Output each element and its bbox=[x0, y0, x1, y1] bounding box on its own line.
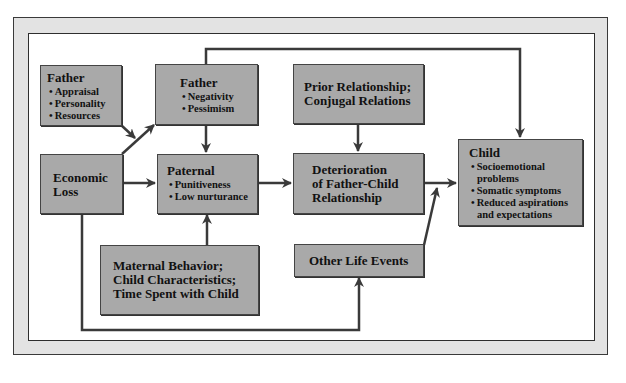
father-traits-title: Father bbox=[47, 71, 121, 85]
maternal-behavior-box: Maternal Behavior; Child Characteristics… bbox=[100, 245, 259, 315]
other-life-events-box: Other Life Events bbox=[294, 244, 424, 277]
deterioration-line-3: Relationship bbox=[312, 191, 423, 205]
list-item: Negativity bbox=[180, 91, 257, 103]
maternal-line-2: Child Characteristics; bbox=[113, 273, 258, 287]
other-events-line: Other Life Events bbox=[309, 254, 423, 268]
maternal-line-3: Time Spent with Child bbox=[113, 287, 258, 301]
father-traits-box: Father Appraisal Personality Resources bbox=[40, 65, 122, 126]
child-box: Child Socioemotional problems Somatic sy… bbox=[458, 139, 583, 226]
deterioration-box: Deterioration of Father-Child Relationsh… bbox=[293, 153, 424, 214]
prior-line-1: Prior Relationship; bbox=[304, 80, 423, 94]
deterioration-line-2: of Father-Child bbox=[312, 177, 423, 191]
father-traits-list: Appraisal Personality Resources bbox=[47, 86, 121, 122]
child-list: Socioemotional problems Somatic symptoms… bbox=[469, 161, 578, 221]
child-title: Child bbox=[469, 146, 578, 160]
list-item: Socioemotional problems bbox=[469, 161, 578, 185]
list-item: Low nurturance bbox=[167, 191, 257, 203]
father-state-list: Negativity Pessimism bbox=[180, 91, 257, 115]
paternal-list: Punitiveness Low nurturance bbox=[167, 179, 257, 203]
prior-relationship-box: Prior Relationship; Conjugal Relations bbox=[293, 64, 424, 124]
list-item: Personality bbox=[47, 98, 121, 110]
list-item: Resources bbox=[47, 110, 121, 122]
economic-line-2: Loss bbox=[53, 185, 122, 199]
prior-line-2: Conjugal Relations bbox=[304, 94, 423, 108]
maternal-line-1: Maternal Behavior; bbox=[113, 259, 258, 273]
list-item: Reduced aspirations and expectations bbox=[469, 197, 578, 221]
paternal-box: Paternal Punitiveness Low nurturance bbox=[157, 154, 258, 214]
arrow-father-traits-to-father-state bbox=[121, 125, 135, 138]
list-item: Appraisal bbox=[47, 86, 121, 98]
deterioration-line-1: Deterioration bbox=[312, 163, 423, 177]
economic-line-1: Economic bbox=[53, 171, 122, 185]
arrow-other-events-to-child bbox=[424, 188, 437, 245]
father-state-box: Father Negativity Pessimism bbox=[155, 64, 258, 125]
list-item: Punitiveness bbox=[167, 179, 257, 191]
list-item: Pessimism bbox=[180, 103, 257, 115]
economic-loss-box: Economic Loss bbox=[40, 154, 123, 214]
list-item: Somatic symptoms bbox=[469, 185, 578, 197]
father-state-title: Father bbox=[180, 76, 257, 90]
paternal-title: Paternal bbox=[167, 164, 257, 178]
